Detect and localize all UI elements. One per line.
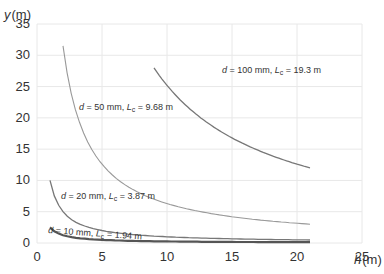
y-tick-label: 15 xyxy=(16,141,30,156)
y-tick-label: 30 xyxy=(16,47,30,62)
x-tick-label: 10 xyxy=(160,249,174,264)
y-axis-label: y(m) xyxy=(3,7,31,22)
curve-label-d50: d = 50 mm, Lc = 9.68 m xyxy=(79,102,173,113)
x-tick-label: 20 xyxy=(290,249,304,264)
y-tick-label: 0 xyxy=(23,235,30,250)
curve-label-d100: d = 100 mm, Lc = 19.3 m xyxy=(222,65,321,76)
x-tick-label: 0 xyxy=(33,249,40,264)
y-tick-label: 20 xyxy=(16,110,30,125)
y-tick-label: 25 xyxy=(16,79,30,94)
y-tick-label: 5 xyxy=(23,204,30,219)
x-tick-label: 15 xyxy=(225,249,239,264)
grid-lines xyxy=(37,24,362,243)
x-tick-label: 5 xyxy=(98,249,105,264)
y-tick-label: 10 xyxy=(16,172,30,187)
curves xyxy=(50,46,310,242)
chart: 051015202505101520253035 y(m) h(m) d = 1… xyxy=(0,0,384,274)
curve-label-d20: d = 20 mm, Lc = 3.87 m xyxy=(61,191,155,202)
x-axis-label: h(m) xyxy=(354,252,382,267)
